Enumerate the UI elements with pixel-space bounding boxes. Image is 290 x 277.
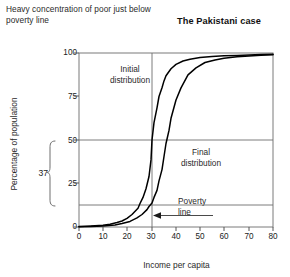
population-brace xyxy=(47,141,56,206)
x-axis-ticks xyxy=(79,227,273,231)
reference-lines xyxy=(79,53,273,227)
series-final-distribution xyxy=(79,55,273,227)
y-axis-ticks xyxy=(74,53,79,227)
chart-canvas xyxy=(0,0,290,277)
poverty-line-arrow xyxy=(153,212,213,218)
